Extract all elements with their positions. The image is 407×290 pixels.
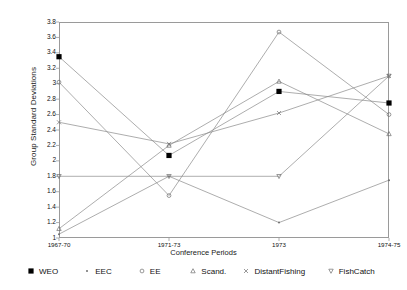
x-tick-label: 1967-70 [35, 241, 83, 248]
x-tick-label: 1974-75 [365, 241, 407, 248]
legend-label: Scand. [201, 267, 226, 276]
chart-container: Group Standard Deviations 11.21.41.61.82… [0, 0, 407, 290]
x-tick-label: 1971-73 [145, 241, 193, 248]
data-point-marker [244, 269, 248, 273]
series-line-fishcatch [59, 76, 389, 176]
legend-triangle-down-icon [326, 266, 336, 276]
legend-cross-icon [241, 266, 251, 276]
x-axis-title: Conference Periods [0, 248, 407, 257]
legend-item-eec: EEC [82, 266, 137, 276]
data-point-marker [28, 268, 33, 273]
legend-dot-icon [82, 266, 92, 276]
data-point-marker [166, 153, 171, 158]
legend-item-scand: Scand. [188, 266, 241, 276]
data-point-marker [86, 270, 88, 272]
legend-item-weo: WEO [26, 266, 82, 276]
legend-label: DistantFishing [254, 267, 305, 276]
series-line-weo [59, 57, 389, 156]
data-point-marker [140, 269, 144, 273]
legend-circle-icon [137, 266, 147, 276]
data-point-marker [386, 100, 391, 105]
data-point-marker [329, 269, 333, 273]
data-point-marker [191, 269, 195, 273]
legend-item-ee: EE [137, 266, 189, 276]
data-point-marker [388, 179, 390, 181]
data-point-marker [56, 54, 61, 59]
data-point-marker [276, 89, 281, 94]
data-point-marker [277, 111, 281, 115]
legend-item-fishcatch: FishCatch [326, 266, 396, 276]
chart-legend: WEOEECEEScand.DistantFishingFishCatch [26, 263, 396, 279]
legend-label: WEO [39, 267, 58, 276]
series-line-scand. [59, 81, 389, 228]
legend-label: FishCatch [339, 267, 375, 276]
series-line-eec [59, 176, 389, 234]
legend-triangle-up-icon [188, 266, 198, 276]
x-tick-label: 1973 [255, 241, 303, 248]
legend-item-distantfishing: DistantFishing [241, 266, 325, 276]
legend-label: EEC [95, 267, 111, 276]
data-point-marker [278, 222, 280, 224]
legend-label: EE [150, 267, 161, 276]
legend-filled-square-icon [26, 266, 36, 276]
data-point-marker [58, 233, 60, 235]
